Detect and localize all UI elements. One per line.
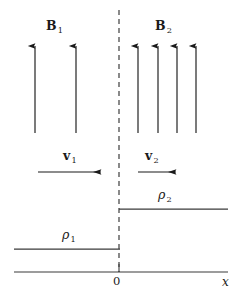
velocity-subscript-1: 1 <box>72 155 77 165</box>
velocity-symbol-1: v <box>63 148 70 163</box>
b-field-symbol-1: B <box>46 18 57 33</box>
b-field-arrows-region-1 <box>35 46 76 133</box>
density-label-region-1: ρ1 <box>62 229 75 242</box>
velocity-label-region-1: v1 <box>63 150 76 163</box>
diagram-vector-layer <box>0 0 240 298</box>
b-field-label-region-2: B2 <box>155 20 171 33</box>
b-field-arrows-region-2 <box>138 46 196 133</box>
velocity-label-region-2: v2 <box>145 150 158 163</box>
origin-label: 0 <box>113 276 120 288</box>
density-symbol-2: ρ <box>158 187 165 202</box>
density-symbol-1: ρ <box>62 227 69 242</box>
velocity-symbol-2: v <box>145 148 152 163</box>
x-axis-label: x <box>222 276 229 288</box>
density-label-region-2: ρ2 <box>158 189 171 202</box>
b-field-symbol-2: B <box>155 18 166 33</box>
density-subscript-2: 2 <box>166 194 171 204</box>
b-field-subscript-2: 2 <box>167 25 172 35</box>
b-field-subscript-1: 1 <box>58 25 63 35</box>
b-field-label-region-1: B1 <box>46 20 62 33</box>
physics-diagram-canvas: B1 B2 v1 v2 ρ1 ρ2 0 x <box>0 0 240 298</box>
density-subscript-1: 1 <box>70 234 75 244</box>
velocity-subscript-2: 2 <box>154 155 159 165</box>
